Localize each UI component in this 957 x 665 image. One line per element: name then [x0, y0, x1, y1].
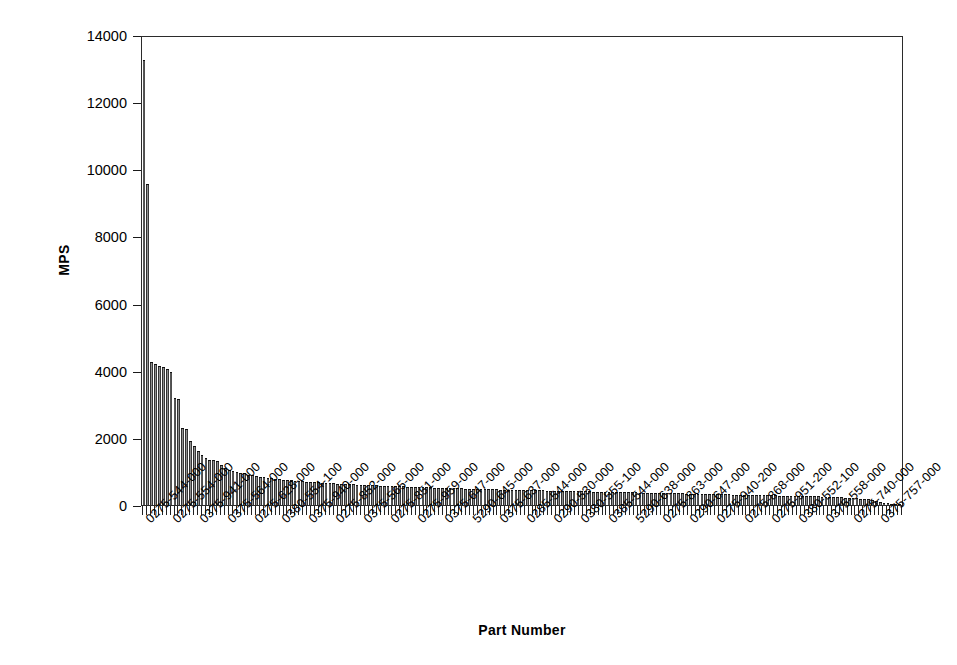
y-axis-tick-label: 12000 — [87, 95, 127, 111]
y-axis-ticks: 02000400060008000100001200014000 — [0, 0, 141, 665]
y-axis-tick-label: 0 — [119, 498, 127, 514]
y-axis-tick-mark — [133, 439, 141, 440]
y-axis-tick-label: 8000 — [95, 229, 127, 245]
x-axis-tick-labels: 0275-544-0000275-554-0000375-941-0000375… — [141, 506, 903, 616]
y-axis-tick-mark — [133, 372, 141, 373]
mps-pareto-chart: MPS 02000400060008000100001200014000 027… — [0, 0, 957, 665]
y-axis-tick-label: 14000 — [87, 28, 127, 44]
bar-series — [142, 37, 902, 505]
y-axis-tick-label: 2000 — [95, 431, 127, 447]
y-axis-tick-label: 4000 — [95, 364, 127, 380]
plot-area — [141, 36, 903, 506]
bar-slot — [898, 37, 902, 505]
y-axis-tick-mark — [133, 506, 141, 507]
y-axis-tick-label: 6000 — [95, 297, 127, 313]
y-axis-tick-mark — [133, 237, 141, 238]
y-axis-tick-label: 10000 — [87, 162, 127, 178]
y-axis-tick-mark — [133, 305, 141, 306]
x-axis-title: Part Number — [141, 622, 903, 638]
y-axis-tick-mark — [133, 170, 141, 171]
y-axis-tick-mark — [133, 36, 141, 37]
y-axis-tick-mark — [133, 103, 141, 104]
